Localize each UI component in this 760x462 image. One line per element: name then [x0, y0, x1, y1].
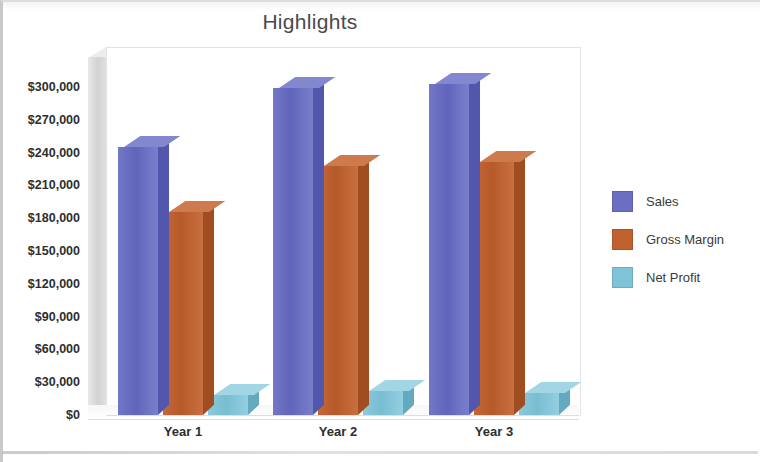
- bar-sales-year-1[interactable]: [118, 147, 158, 415]
- bar-side-face: [514, 152, 525, 415]
- legend-item[interactable]: Gross Margin: [612, 220, 752, 258]
- chart-area: Highlights $0$30,000$60,000$90,000$120,0…: [0, 0, 760, 462]
- legend-swatch-icon: [612, 229, 633, 250]
- bar-front-face: [118, 147, 158, 415]
- legend-item-label: Sales: [646, 194, 679, 209]
- legend-swatch-icon: [612, 191, 633, 212]
- bar-net-profit-year-3[interactable]: [519, 393, 559, 415]
- y-axis-tick-label: $60,000: [2, 342, 80, 356]
- legend-item-label: Net Profit: [646, 270, 700, 285]
- y-axis-tick-label: $240,000: [2, 146, 80, 160]
- bar-front-face: [318, 166, 358, 415]
- bar-sales-year-2[interactable]: [273, 88, 313, 415]
- chart-legend: SalesGross MarginNet Profit: [612, 182, 752, 296]
- x-axis-tick-label: Year 2: [278, 424, 398, 439]
- legend-item-label: Gross Margin: [646, 232, 724, 247]
- y-axis-tick-label: $0: [2, 408, 80, 422]
- bar-side-face: [358, 155, 369, 415]
- legend-item[interactable]: Sales: [612, 182, 752, 220]
- bar-side-face: [203, 201, 214, 415]
- legend-item[interactable]: Net Profit: [612, 258, 752, 296]
- y-axis-tick-label: $180,000: [2, 211, 80, 225]
- bar-gross-margin-year-3[interactable]: [474, 162, 514, 415]
- bar-sales-year-3[interactable]: [429, 84, 469, 415]
- x-axis-tick-label: Year 3: [434, 424, 554, 439]
- y-axis: $0$30,000$60,000$90,000$120,000$150,000$…: [0, 0, 80, 462]
- bar-front-face: [363, 391, 403, 415]
- bar-front-face: [429, 84, 469, 415]
- y-axis-tick-label: $120,000: [2, 277, 80, 291]
- bar-side-face: [313, 78, 324, 415]
- bar-front-face: [474, 162, 514, 415]
- y-axis-tick-label: $210,000: [2, 178, 80, 192]
- bar-net-profit-year-1[interactable]: [208, 395, 248, 415]
- bar-side-face: [158, 137, 169, 415]
- bar-front-face: [208, 395, 248, 415]
- bar-gross-margin-year-1[interactable]: [163, 212, 203, 415]
- bar-top-face: [435, 73, 491, 84]
- bar-top-face: [480, 151, 536, 162]
- y-axis-tick-label: $90,000: [2, 310, 80, 324]
- bar-net-profit-year-2[interactable]: [363, 391, 403, 415]
- y-axis-tick-label: $30,000: [2, 375, 80, 389]
- bar-side-face: [469, 73, 480, 415]
- chart-title: Highlights: [0, 10, 620, 34]
- y-axis-tick-label: $150,000: [2, 244, 80, 258]
- plot-area: [88, 47, 580, 422]
- legend-swatch-icon: [612, 267, 633, 288]
- y-axis-tick-label: $270,000: [2, 113, 80, 127]
- x-axis-tick-label: Year 1: [123, 424, 243, 439]
- bar-front-face: [519, 393, 559, 415]
- bar-front-face: [273, 88, 313, 415]
- bar-gross-margin-year-2[interactable]: [318, 166, 358, 415]
- bar-front-face: [163, 212, 203, 415]
- bar-top-face: [525, 382, 581, 393]
- y-axis-tick-label: $300,000: [2, 80, 80, 94]
